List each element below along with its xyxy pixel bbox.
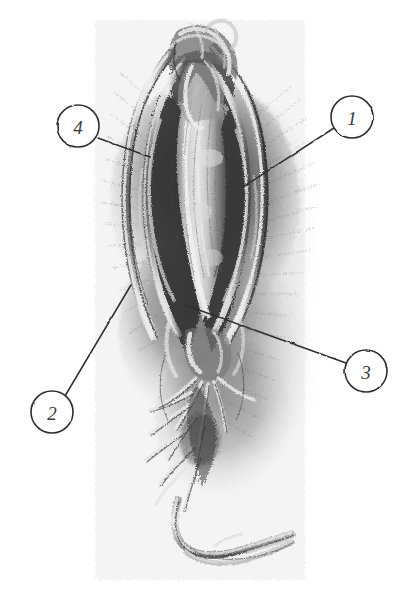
illustration-canvas: 1 2 3 4 [0,0,416,590]
callout-4-label: 4 [73,117,83,138]
callout-1-label: 1 [347,108,357,129]
specimen-drawing [95,20,325,580]
callout-2[interactable]: 2 [31,391,73,433]
callout-3[interactable]: 3 [345,350,387,392]
callout-4[interactable]: 4 [57,105,99,147]
callout-1[interactable]: 1 [331,96,373,138]
callout-3-label: 3 [360,362,371,383]
illustration-figure: 1 2 3 4 [0,0,416,590]
callout-2-label: 2 [47,403,57,424]
